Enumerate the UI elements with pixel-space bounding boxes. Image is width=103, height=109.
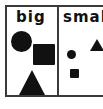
small-triangle-shape [90, 39, 103, 51]
panel-label-small: small [63, 9, 103, 25]
big-triangle-shape [19, 70, 45, 95]
small-circle-shape [67, 50, 76, 59]
panel-divider [57, 5, 59, 97]
small-square-shape [70, 69, 79, 78]
panel-label-big: big [16, 9, 46, 25]
big-square-shape [33, 44, 55, 65]
big-small-diagram: big small [0, 0, 103, 109]
big-circle-shape [11, 31, 32, 52]
